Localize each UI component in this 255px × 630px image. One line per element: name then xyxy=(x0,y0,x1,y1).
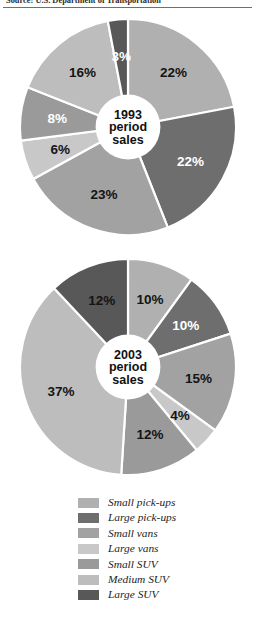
legend-label-medium_suv: Medium SUV xyxy=(108,574,169,585)
legend-item-small_suv: Small SUV xyxy=(78,557,238,572)
pie-chart-2003: 10%10%15%4%12%37%12%2003periodsales xyxy=(17,256,239,478)
figure-page: Source: U.S. Department of Transportatio… xyxy=(0,0,255,630)
legend-swatch-small_vans xyxy=(78,528,99,538)
legend-item-small_vans: Small vans xyxy=(78,526,238,541)
legend-item-large_suv: Large SUV xyxy=(78,587,238,602)
pie-chart-1993-svg: 22%22%23%6%8%16%3%1993periodsales xyxy=(17,16,239,238)
legend-item-large_pickups: Large pick-ups xyxy=(78,510,238,525)
legend-label-small_suv: Small SUV xyxy=(108,559,158,570)
legend-swatch-medium_suv xyxy=(78,575,99,585)
pie-slice-label: 10% xyxy=(136,292,163,307)
pie-slice-label: 8% xyxy=(47,111,67,126)
pie-slice-label: 16% xyxy=(69,65,96,80)
pie-slice-label: 15% xyxy=(184,371,211,386)
pie-slice-label: 12% xyxy=(136,427,163,442)
pie-slice-label: 23% xyxy=(90,187,117,202)
legend-label-small_vans: Small vans xyxy=(108,528,158,539)
pie-slice-label: 3% xyxy=(111,49,131,64)
pie-slice-label: 10% xyxy=(172,318,199,333)
legend-item-large_vans: Large vans xyxy=(78,541,238,556)
pie-slice-label: 4% xyxy=(170,408,190,423)
legend-label-small_pickups: Small pick-ups xyxy=(108,497,175,508)
legend-swatch-large_pickups xyxy=(78,513,99,523)
legend-item-small_pickups: Small pick-ups xyxy=(78,495,238,510)
legend-label-large_suv: Large SUV xyxy=(108,589,159,600)
legend-label-large_vans: Large vans xyxy=(108,543,159,554)
pie-slice-label: 22% xyxy=(176,154,203,169)
legend-swatch-large_suv xyxy=(78,590,99,600)
pie-center-label-line: sales xyxy=(112,373,143,387)
pie-chart-2003-svg: 10%10%15%4%12%37%12%2003periodsales xyxy=(17,256,239,478)
pie-slice-label: 22% xyxy=(159,65,186,80)
pie-chart-1993: 22%22%23%6%8%16%3%1993periodsales xyxy=(17,16,239,238)
legend-label-large_pickups: Large pick-ups xyxy=(108,512,176,523)
pie-slice-label: 12% xyxy=(88,293,115,308)
pie-center-label-line: sales xyxy=(112,133,143,147)
pie-slice-label: 37% xyxy=(47,384,74,399)
legend-swatch-large_vans xyxy=(78,544,99,554)
pie-slice-label: 6% xyxy=(50,142,70,157)
legend-swatch-small_suv xyxy=(78,559,99,569)
chart-legend: Small pick-upsLarge pick-upsSmall vansLa… xyxy=(78,495,238,603)
legend-item-medium_suv: Medium SUV xyxy=(78,572,238,587)
source-caption: Source: U.S. Department of Transportatio… xyxy=(6,0,249,6)
legend-swatch-small_pickups xyxy=(78,498,99,508)
header-divider-rule xyxy=(3,7,252,8)
